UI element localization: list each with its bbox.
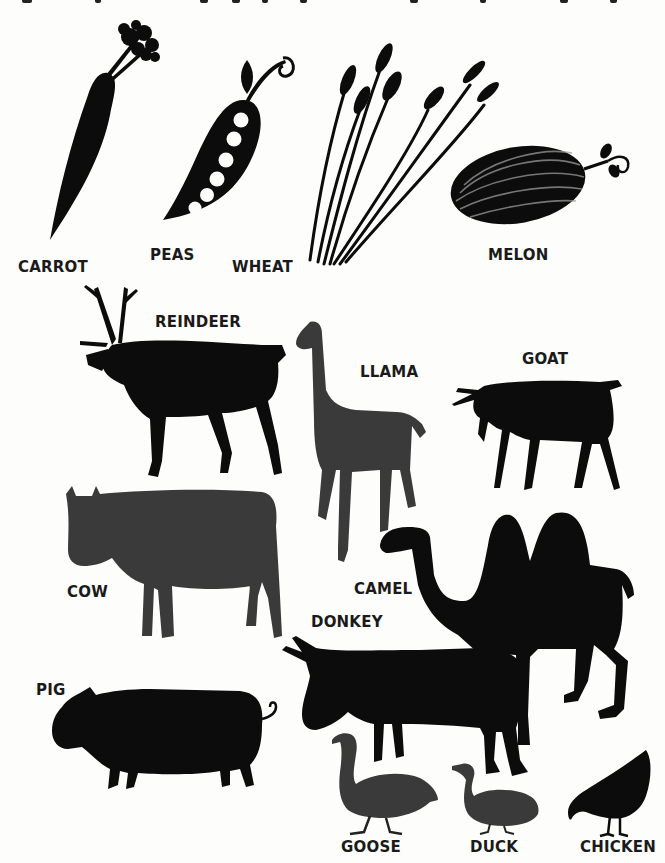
llama-label: LLAMA — [360, 363, 418, 381]
carrot-label: CARROT — [18, 258, 88, 276]
cropped-text-line — [0, 0, 665, 5]
cow-label: COW — [67, 583, 108, 601]
pig-label: PIG — [36, 681, 66, 699]
goose-icon — [330, 732, 440, 832]
pea-pod-icon — [155, 42, 295, 222]
donkey-label: DONKEY — [311, 613, 383, 631]
goat-icon — [450, 378, 630, 508]
pig-icon — [50, 685, 280, 795]
wheat-label: WHEAT — [232, 258, 293, 276]
melon-icon — [448, 135, 638, 225]
melon-label: MELON — [488, 246, 549, 264]
chicken-icon — [566, 748, 656, 838]
chicken-label: CHICKEN — [580, 838, 656, 856]
duck-icon — [450, 762, 540, 832]
goose-label: GOOSE — [341, 838, 401, 856]
illustration-page: CARROT PEAS — [0, 0, 665, 863]
reindeer-label: REINDEER — [155, 313, 241, 331]
carrot-icon — [40, 25, 160, 245]
peas-label: PEAS — [150, 246, 194, 264]
camel-label: CAMEL — [354, 580, 412, 598]
duck-label: DUCK — [470, 838, 518, 856]
goat-label: GOAT — [522, 350, 568, 368]
cow-icon — [62, 486, 292, 646]
